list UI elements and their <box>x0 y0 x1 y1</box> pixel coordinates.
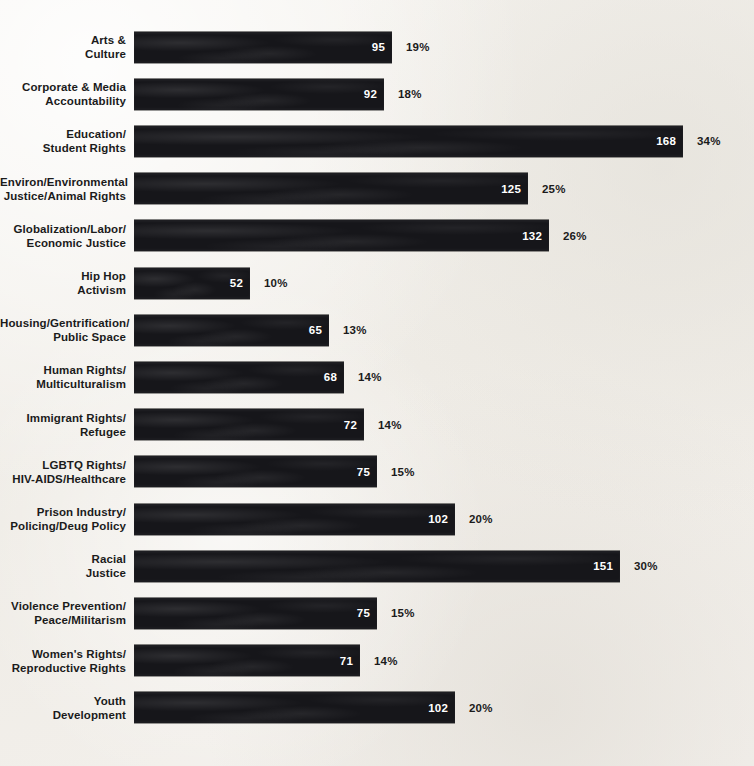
category-label: Housing/Gentrification/ Public Space <box>0 316 134 344</box>
bar-container: 52 <box>134 268 250 299</box>
bar-percent-label: 13% <box>343 324 367 336</box>
bar-percent-label: 20% <box>469 702 493 714</box>
bar-row: Environ/Environmental Justice/Animal Rig… <box>0 167 754 211</box>
bar-container: 168 <box>134 126 683 157</box>
category-label: Youth Development <box>0 694 134 722</box>
bar-value-label: 92 <box>364 88 377 100</box>
category-label: Human Rights/ Multiculturalism <box>0 363 134 391</box>
bar-percent-label: 14% <box>378 419 402 431</box>
bar-row: Corporate & Media Accountability9218% <box>0 72 754 116</box>
bar-row: Racial Justice15130% <box>0 544 754 588</box>
bar-container: 132 <box>134 220 549 251</box>
bar: 52 <box>134 268 250 299</box>
bar-percent-label: 10% <box>264 277 288 289</box>
bar-value-label: 75 <box>357 607 370 619</box>
bar-container: 68 <box>134 362 344 393</box>
bar-percent-label: 14% <box>374 655 398 667</box>
bar-row: Women's Rights/ Reproductive Rights7114% <box>0 639 754 683</box>
bar: 125 <box>134 173 528 204</box>
bar: 102 <box>134 692 455 723</box>
bar-percent-label: 34% <box>697 135 721 147</box>
bar-percent-label: 19% <box>406 41 430 53</box>
bar-value-label: 95 <box>372 41 385 53</box>
bar-row: Housing/Gentrification/ Public Space6513… <box>0 308 754 352</box>
category-label: Education/ Student Rights <box>0 127 134 155</box>
category-label: Environ/Environmental Justice/Animal Rig… <box>0 175 134 203</box>
bar: 92 <box>134 79 384 110</box>
bar: 151 <box>134 551 620 582</box>
bar-row: Violence Prevention/ Peace/Militarism751… <box>0 591 754 635</box>
category-label: Globalization/Labor/ Economic Justice <box>0 222 134 250</box>
bar-container: 65 <box>134 315 329 346</box>
bar-container: 151 <box>134 551 620 582</box>
bar-row: Hip Hop Activism5210% <box>0 261 754 305</box>
horizontal-bar-chart: Arts & Culture9519%Corporate & Media Acc… <box>0 0 754 766</box>
bar-value-label: 102 <box>428 513 448 525</box>
category-label: Racial Justice <box>0 552 134 580</box>
bar-container: 102 <box>134 504 455 535</box>
bar-value-label: 52 <box>230 277 243 289</box>
category-label: Arts & Culture <box>0 33 134 61</box>
bar-percent-label: 15% <box>391 466 415 478</box>
bar-row: Globalization/Labor/ Economic Justice132… <box>0 214 754 258</box>
bar: 68 <box>134 362 344 393</box>
bar-container: 102 <box>134 692 455 723</box>
bar: 95 <box>134 32 392 63</box>
bar-value-label: 102 <box>428 702 448 714</box>
bar-row: Education/ Student Rights16834% <box>0 119 754 163</box>
bar: 102 <box>134 504 455 535</box>
bar-value-label: 68 <box>324 371 337 383</box>
bar-value-label: 71 <box>340 655 353 667</box>
category-label: Violence Prevention/ Peace/Militarism <box>0 599 134 627</box>
bar-percent-label: 25% <box>542 183 566 195</box>
bar: 132 <box>134 220 549 251</box>
category-label: Corporate & Media Accountability <box>0 80 134 108</box>
bar: 75 <box>134 598 377 629</box>
bar-percent-label: 18% <box>398 88 422 100</box>
bar-value-label: 125 <box>501 183 521 195</box>
bar-row: Arts & Culture9519% <box>0 25 754 69</box>
bar-value-label: 132 <box>522 230 542 242</box>
bar-row: Human Rights/ Multiculturalism6814% <box>0 355 754 399</box>
bar-percent-label: 15% <box>391 607 415 619</box>
bar-value-label: 72 <box>344 419 357 431</box>
bar-percent-label: 20% <box>469 513 493 525</box>
bar-value-label: 75 <box>357 466 370 478</box>
bar-container: 75 <box>134 598 377 629</box>
bar: 75 <box>134 456 377 487</box>
bar-container: 92 <box>134 79 384 110</box>
bar-value-label: 65 <box>309 324 322 336</box>
bar-value-label: 168 <box>656 135 676 147</box>
bar: 168 <box>134 126 683 157</box>
category-label: LGBTQ Rights/ HIV-AIDS/Healthcare <box>0 458 134 486</box>
bar-row: LGBTQ Rights/ HIV-AIDS/Healthcare7515% <box>0 450 754 494</box>
bar-container: 125 <box>134 173 528 204</box>
bar-container: 72 <box>134 409 364 440</box>
bar: 72 <box>134 409 364 440</box>
bar-percent-label: 26% <box>563 230 587 242</box>
bar-row: Prison Industry/ Policing/Deug Policy102… <box>0 497 754 541</box>
bar-container: 95 <box>134 32 392 63</box>
bar-row: Youth Development10220% <box>0 686 754 730</box>
category-label: Hip Hop Activism <box>0 269 134 297</box>
bar-container: 75 <box>134 456 377 487</box>
category-label: Immigrant Rights/ Refugee <box>0 411 134 439</box>
category-label: Prison Industry/ Policing/Deug Policy <box>0 505 134 533</box>
bar-row: Immigrant Rights/ Refugee7214% <box>0 403 754 447</box>
bar-percent-label: 30% <box>634 560 658 572</box>
category-label: Women's Rights/ Reproductive Rights <box>0 647 134 675</box>
bar-percent-label: 14% <box>358 371 382 383</box>
bar: 71 <box>134 645 360 676</box>
bar-value-label: 151 <box>593 560 613 572</box>
bar: 65 <box>134 315 329 346</box>
bar-container: 71 <box>134 645 360 676</box>
